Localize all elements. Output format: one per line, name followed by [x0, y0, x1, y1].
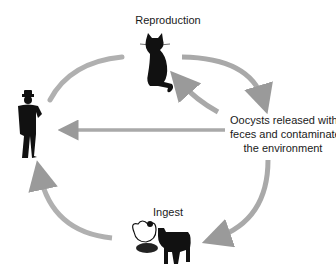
arc-human-to-cat: [50, 57, 122, 100]
cow-icon: [158, 228, 191, 264]
arc-environment-to-livestock: [216, 160, 268, 238]
oocysts-label-line3: the environment: [230, 141, 336, 155]
human-icon: [18, 90, 42, 158]
oocysts-label: Oocysts released with feces and contamin…: [230, 113, 336, 155]
oocysts-label-line1: Oocysts released with: [230, 113, 336, 127]
reproduction-label: Reproduction: [118, 14, 218, 27]
arc-environment-to-cat: [180, 82, 218, 112]
ingest-label: Ingest: [138, 206, 198, 219]
life-cycle-diagram: Reproduction Oocysts released with feces…: [0, 0, 336, 279]
arc-livestock-to-human: [40, 175, 112, 238]
oocysts-label-line2: feces and contaminate: [230, 127, 336, 141]
cat-icon: [140, 33, 173, 92]
chicken-icon: [133, 221, 158, 253]
